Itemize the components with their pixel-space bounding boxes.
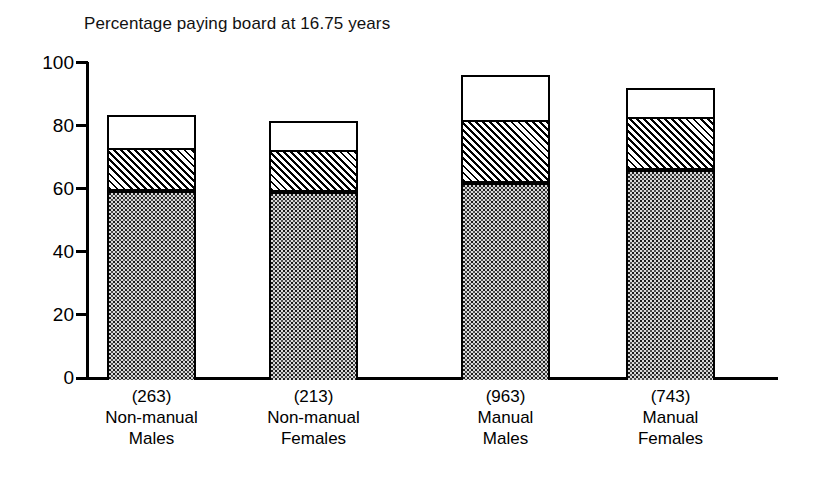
- category-name-line2: Males: [62, 428, 241, 449]
- category-name-line1: Manual: [581, 407, 760, 428]
- category-label: (963)ManualMales: [416, 386, 595, 449]
- y-axis-tick: [76, 313, 88, 316]
- category-count: (263): [62, 386, 241, 407]
- y-axis-tick: [76, 61, 88, 64]
- bar-segment-hatched: [463, 120, 548, 183]
- stacked-bar: [626, 88, 715, 378]
- y-axis-tick-label: 100: [12, 53, 74, 72]
- category-label: (263)Non-manualMales: [62, 386, 241, 449]
- y-axis-tick-label: 20: [12, 305, 74, 324]
- bar-segment-open: [628, 90, 713, 117]
- bar-segment-open: [463, 77, 548, 120]
- bar-segment-open: [271, 123, 356, 150]
- category-label: (213)Non-manualFemales: [224, 386, 403, 449]
- category-name-line1: Non-manual: [62, 407, 241, 428]
- y-axis-tick-label: 60: [12, 179, 74, 198]
- bar-segment-stippled: [463, 183, 548, 380]
- category-count: (963): [416, 386, 595, 407]
- y-axis-tick-label: 40: [12, 242, 74, 261]
- plot-area: 020406080100 (263)Non-manualMales(213)No…: [0, 0, 818, 492]
- category-label: (743)ManualFemales: [581, 386, 760, 449]
- category-count: (213): [224, 386, 403, 407]
- y-axis-tick-label: 0: [12, 368, 74, 387]
- y-axis-tick: [76, 187, 88, 190]
- category-name-line1: Manual: [416, 407, 595, 428]
- bar-segment-hatched: [628, 117, 713, 171]
- stacked-bar: [461, 75, 550, 378]
- category-name-line2: Females: [581, 428, 760, 449]
- category-name-line1: Non-manual: [224, 407, 403, 428]
- y-axis-line: [86, 62, 89, 379]
- bar-segment-stippled: [109, 191, 194, 380]
- y-axis-tick: [76, 124, 88, 127]
- chart-figure: Percentage paying board at 16.75 years 0…: [0, 0, 818, 492]
- stacked-bar: [269, 121, 358, 378]
- y-axis-tick: [76, 250, 88, 253]
- bar-segment-hatched: [271, 150, 356, 193]
- category-count: (743): [581, 386, 760, 407]
- category-name-line2: Males: [416, 428, 595, 449]
- bar-segment-stippled: [628, 170, 713, 380]
- y-axis-tick: [76, 377, 88, 380]
- bar-segment-open: [109, 117, 194, 149]
- bar-segment-hatched: [109, 148, 194, 191]
- stacked-bar: [107, 115, 196, 378]
- category-name-line2: Females: [224, 428, 403, 449]
- bar-segment-stippled: [271, 192, 356, 380]
- y-axis-tick-label: 80: [12, 116, 74, 135]
